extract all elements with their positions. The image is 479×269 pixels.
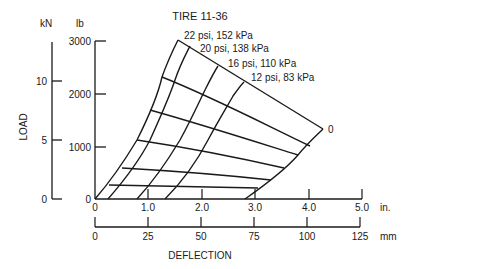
lb-tick-2000: 2000 [69,89,92,100]
kn-tick-10: 10 [36,76,48,87]
label-20psi: 20 psi, 138 kPa [200,43,269,54]
kn-tick-0: 0 [41,194,47,205]
mm-tick-100: 100 [299,231,316,242]
label-0psi: 0 [328,124,334,135]
kn-tick-5: 5 [41,135,47,146]
kn-unit-label: kN [40,18,52,29]
curve-12psi [165,82,244,199]
lb-tick-1000: 1000 [69,142,92,153]
load-line-4 [150,110,298,155]
kn-axis: kN 10 5 0 [36,18,62,205]
in-tick-4: 4.0 [302,202,316,213]
lb-tick-0: 0 [85,194,91,205]
lb-tick-3000: 3000 [69,36,92,47]
curve-labels: 22 psi, 152 kPa 20 psi, 138 kPa 16 psi, … [184,30,334,135]
mm-tick-125: 125 [352,231,369,242]
tire-load-deflection-chart: TIRE 11-36 kN 10 5 0 LOAD lb 3000 2000 1… [0,0,479,269]
chart-title: TIRE 11-36 [172,10,227,22]
x-axis-label: DEFLECTION [168,250,231,261]
y-axis-label: LOAD [18,113,29,140]
in-tick-2: 2.0 [195,202,209,213]
curve-16psi [137,66,218,199]
load-line-1 [109,185,258,188]
inch-axis: 0 1.0 2.0 3.0 4.0 5.0 in. [92,189,390,213]
mm-tick-50: 50 [195,231,207,242]
label-16psi: 16 psi, 110 kPa [228,58,297,69]
mm-unit-label: mm [380,231,397,242]
mm-tick-25: 25 [142,231,154,242]
mm-tick-0: 0 [92,231,98,242]
curve-22psi [95,40,178,199]
lb-axis: lb 3000 2000 1000 0 [69,18,106,205]
mm-axis: 0 25 50 75 100 125 mm [92,217,396,242]
load-line-2 [122,168,271,180]
in-tick-3: 3.0 [248,202,262,213]
lb-unit-label: lb [76,18,84,29]
curve-20psi [108,46,190,199]
in-tick-0: 0 [92,202,98,213]
label-22psi: 22 psi, 152 kPa [184,30,253,41]
in-tick-1: 1.0 [141,202,155,213]
in-unit-label: in. [380,202,391,213]
in-tick-5: 5.0 [355,202,369,213]
label-12psi: 12 psi, 83 kPa [251,72,315,83]
mm-tick-75: 75 [248,231,260,242]
